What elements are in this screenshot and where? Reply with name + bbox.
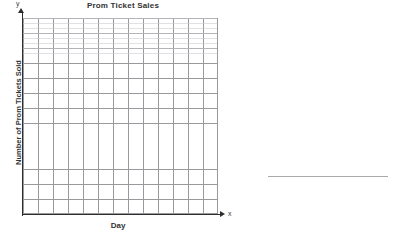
x-axis-variable-label: x [228, 209, 232, 218]
prom-ticket-sales-worksheet: Prom Ticket Sales y x Number of Prom Tic… [0, 0, 396, 238]
graph-grid-plot-area[interactable] [23, 18, 218, 214]
answer-blank-line[interactable] [268, 176, 388, 177]
y-axis-variable-label: y [16, 0, 20, 8]
x-axis-title: Day [43, 221, 193, 230]
x-axis-line [22, 214, 222, 216]
y-axis-arrow-icon [18, 8, 24, 13]
x-axis-arrow-icon [220, 211, 225, 217]
page-title: Prom Ticket Sales [40, 1, 206, 10]
y-axis-title: Number of Prom Tickets Sold [14, 38, 23, 188]
